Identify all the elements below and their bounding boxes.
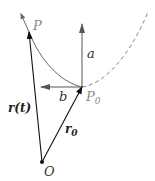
label-a: a <box>87 46 95 61</box>
curve-vector-diagram: P a b P0 r(t) r0 O <box>0 0 155 181</box>
label-b: b <box>59 89 67 104</box>
label-O: O <box>44 164 55 179</box>
label-P: P <box>32 18 42 33</box>
curve-solid-segment <box>21 14 82 87</box>
vector-r-t <box>29 32 42 162</box>
label-r0: r0 <box>65 122 78 138</box>
label-r-t: r(t) <box>8 101 31 115</box>
label-P0: P0 <box>85 89 101 106</box>
